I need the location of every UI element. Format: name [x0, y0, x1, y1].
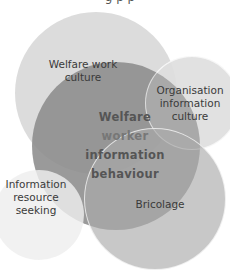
center-line-1: Welfare — [75, 108, 175, 127]
label-bricolage: Bricolage — [130, 198, 190, 211]
label-welfare-work-culture: Welfare work culture — [38, 58, 128, 84]
center-line-4: behaviour — [75, 165, 175, 184]
center-line-3: information — [75, 146, 175, 165]
cut-off-title: g p p — [50, 0, 190, 4]
label-welfare-worker-information-behaviour: Welfare worker information behaviour — [75, 108, 175, 184]
label-information-resource-seeking: Information resource seeking — [0, 178, 72, 217]
center-line-2: worker — [75, 127, 175, 146]
